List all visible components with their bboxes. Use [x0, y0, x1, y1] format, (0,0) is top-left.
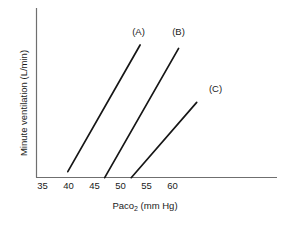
x-tick-label-45: 45	[89, 180, 100, 191]
x-axis-title-group: Paco2 (mm Hg)	[112, 200, 177, 212]
series-annotations-group: (A) (B) (C)	[132, 26, 222, 94]
axes-group	[36, 8, 277, 178]
series-label-c: (C)	[209, 83, 222, 94]
x-axis-title-main: Paco	[112, 200, 134, 211]
series-label-a: (A)	[132, 26, 145, 37]
x-tick-label-50: 50	[115, 180, 126, 191]
series-lines-group	[68, 45, 197, 178]
series-line-a	[68, 45, 140, 172]
x-tick-label-35: 35	[37, 180, 48, 191]
x-tick-label-60: 60	[167, 180, 178, 191]
x-tick-label-55: 55	[141, 180, 152, 191]
y-axis-title: Minute ventilation (L/min)	[18, 50, 29, 156]
x-tick-label-40: 40	[63, 180, 74, 191]
x-axis-title: Paco2 (mm Hg)	[112, 200, 177, 212]
x-axis-title-unit: (mm Hg)	[138, 200, 178, 211]
series-label-b: (B)	[172, 26, 185, 37]
y-axis-title-group: Minute ventilation (L/min)	[18, 50, 29, 156]
chart-canvas: (A) (B) (C) 35 40 45 50 55 60 Paco2 (mm …	[0, 0, 292, 227]
series-line-b	[105, 48, 179, 177]
co2-response-curve-figure: (A) (B) (C) 35 40 45 50 55 60 Paco2 (mm …	[0, 0, 292, 227]
x-axis-tick-labels: 35 40 45 50 55 60	[37, 180, 178, 191]
